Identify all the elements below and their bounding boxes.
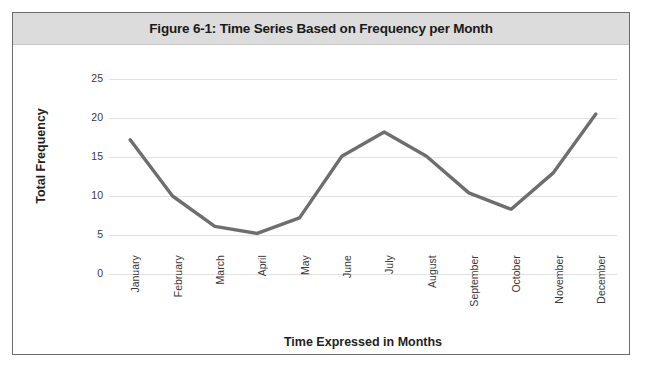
x-tick-label-july: July xyxy=(384,255,395,345)
x-tick-label-december: December xyxy=(596,255,607,345)
x-tick-label-october: October xyxy=(511,255,522,345)
x-tick-label-february: February xyxy=(172,255,183,345)
x-tick-label-march: March xyxy=(215,255,226,345)
x-axis-title: Time Expressed in Months xyxy=(109,335,617,349)
figure-title: Figure 6-1: Time Series Based on Frequen… xyxy=(13,13,629,45)
x-tick-label-april: April xyxy=(257,255,268,345)
y-tick-label: 20 xyxy=(73,112,103,123)
y-tick-label: 15 xyxy=(73,151,103,162)
x-tick-label-january: January xyxy=(130,255,141,345)
x-tick-label-september: September xyxy=(469,255,480,345)
y-axis-tick-labels: 0510152025 xyxy=(69,45,103,354)
y-axis-title: Total Frequency xyxy=(34,76,48,236)
y-tick-label: 10 xyxy=(73,190,103,201)
x-axis-tick-labels: JanuaryFebruaryMarchAprilMayJuneJulyAugu… xyxy=(109,45,617,354)
x-tick-label-may: May xyxy=(299,255,310,345)
x-tick-label-august: August xyxy=(426,255,437,345)
y-tick-label: 5 xyxy=(73,229,103,240)
y-tick-label: 25 xyxy=(73,73,103,84)
x-tick-label-november: November xyxy=(553,255,564,345)
x-tick-label-june: June xyxy=(342,255,353,345)
y-tick-label: 0 xyxy=(73,268,103,279)
chart-canvas: Total Frequency 0510152025 JanuaryFebrua… xyxy=(13,45,629,354)
figure-container: Figure 6-1: Time Series Based on Frequen… xyxy=(12,12,630,355)
